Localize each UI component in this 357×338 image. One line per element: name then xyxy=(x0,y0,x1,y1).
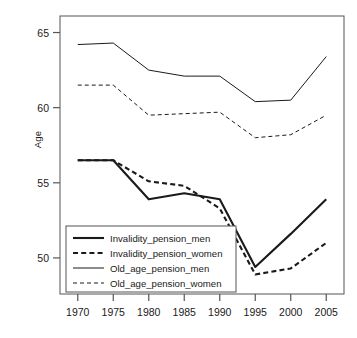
x-axis-tick-label: 1990 xyxy=(208,306,232,318)
line-chart-plot: 6560555019701975198019851990199520002005… xyxy=(0,0,357,338)
x-axis-tick-label: 1975 xyxy=(102,306,126,318)
y-axis-tick-label: 50 xyxy=(37,252,49,264)
x-axis-tick-label: 1980 xyxy=(137,306,161,318)
x-axis-tick-label: 1970 xyxy=(66,306,90,318)
x-axis-tick-label: 2005 xyxy=(315,306,339,318)
series-line-old_age_pension_women xyxy=(78,85,327,138)
legend-label-old_age_pension_men: Old_age_pension_men xyxy=(110,263,209,274)
y-axis-tick-label: 60 xyxy=(37,102,49,114)
x-axis-tick-label: 1985 xyxy=(173,306,197,318)
y-axis-tick-label: 65 xyxy=(37,27,49,39)
y-axis-tick-label: 55 xyxy=(37,177,49,189)
legend-label-invalidity_pension_men: Invalidity_pension_men xyxy=(110,233,210,244)
legend-label-old_age_pension_women: Old_age_pension_women xyxy=(110,278,221,289)
series-line-old_age_pension_men xyxy=(78,43,327,102)
x-axis-tick-label: 1995 xyxy=(244,306,268,318)
chart-figure: Age 656055501970197519801985199019952000… xyxy=(0,0,357,338)
x-axis-tick-label: 2000 xyxy=(279,306,303,318)
legend-label-invalidity_pension_women: Invalidity_pension_women xyxy=(110,248,223,259)
